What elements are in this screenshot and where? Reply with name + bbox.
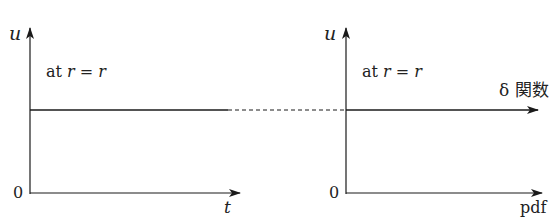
right-annotation: at r = r xyxy=(362,64,422,80)
left-annotation: at r = r xyxy=(46,64,106,80)
right-y-axis-label: u xyxy=(324,24,336,43)
right-origin-label: 0 xyxy=(329,185,339,201)
left-annotation-math: r = r xyxy=(67,62,106,81)
right-annotation-prefix: at xyxy=(362,62,378,81)
delta-function-label: δ 関数 xyxy=(499,82,549,99)
left-annotation-prefix: at xyxy=(46,62,62,81)
left-origin-label: 0 xyxy=(13,185,23,201)
left-y-axis-label: u xyxy=(9,24,21,43)
right-annotation-math: r = r xyxy=(383,62,422,81)
right-x-axis-label: pdf xyxy=(520,200,546,216)
left-x-axis-label: t xyxy=(224,199,231,216)
diagram-canvas xyxy=(0,0,560,221)
